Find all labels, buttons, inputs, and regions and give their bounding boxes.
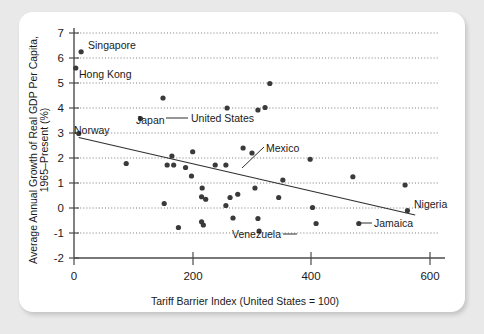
data-point (262, 105, 267, 110)
data-point (223, 203, 228, 208)
y-tick-label-m1: -1 (54, 227, 64, 239)
data-point (224, 105, 229, 110)
data-point-mexico (213, 162, 218, 167)
data-point (255, 107, 260, 112)
data-point (230, 215, 235, 220)
x-tick-label-600: 600 (420, 270, 439, 282)
data-point (203, 197, 208, 202)
data-point (190, 149, 195, 154)
chart-svg: Average Annual Growth of Real GDP Per Ca… (0, 0, 484, 334)
y-tick-label-7: 7 (58, 27, 64, 39)
data-point-hong-kong (73, 65, 78, 70)
y-tick-label-5: 5 (58, 77, 64, 89)
data-point (223, 162, 228, 167)
data-point (183, 165, 188, 170)
data-point (255, 216, 260, 221)
singapore-label: Singapore (88, 39, 136, 51)
united-states-label: United States (191, 112, 254, 124)
data-point (227, 195, 232, 200)
hong-kong-label: Hong Kong (79, 68, 132, 80)
gridlines (74, 33, 438, 233)
data-point (201, 222, 206, 227)
data-point (189, 173, 194, 178)
y-tick-label-6: 6 (58, 52, 64, 64)
y-tick-label-m2: -2 (54, 252, 64, 264)
annotation-leaders (166, 118, 372, 234)
norway-label: Norway (74, 124, 110, 136)
data-point (162, 201, 167, 206)
data-point (200, 185, 205, 190)
nigeria-label: Nigeria (414, 198, 447, 210)
y-tick-label-1: 1 (58, 177, 64, 189)
mexico-leader-line (242, 147, 264, 168)
data-point (308, 157, 313, 162)
x-tick-label-0: 0 (71, 270, 77, 282)
trend-line (79, 138, 415, 216)
data-point (241, 145, 246, 150)
data-point (267, 81, 272, 86)
data-point (171, 162, 176, 167)
y-tick-label-3: 3 (58, 127, 64, 139)
data-point-singapore (79, 49, 84, 54)
scatter-plot-figure: Average Annual Growth of Real GDP Per Ca… (0, 0, 484, 334)
venezuela-label: Venezuela (232, 228, 281, 240)
x-tick-label-400: 400 (301, 270, 320, 282)
y-tick-label-4: 4 (58, 102, 65, 114)
y-tick-label-2: 2 (58, 152, 64, 164)
data-point (310, 205, 315, 210)
data-point (165, 162, 170, 167)
data-point (124, 161, 129, 166)
y-axis-title-line2: 1965–Present (%) (38, 108, 50, 193)
y-axis-title: Average Annual Growth of Real GDP Per Ca… (27, 36, 50, 264)
data-point (176, 225, 181, 230)
x-tick-label-200: 200 (183, 270, 202, 282)
data-point (280, 177, 285, 182)
japan-label: Japan (136, 114, 165, 126)
x-axis-ticks: 0 200 400 600 (71, 252, 440, 282)
data-point (276, 195, 281, 200)
data-point (252, 185, 257, 190)
x-axis-title: Tariff Barrier Index (United States = 10… (151, 295, 339, 307)
data-point-jamaica (313, 221, 318, 226)
data-point (249, 150, 254, 155)
data-point-nigeria (402, 182, 407, 187)
data-point (235, 192, 240, 197)
y-tick-label-0: 0 (58, 202, 64, 214)
data-point-united-states (160, 95, 165, 100)
jamaica-label: Jamaica (374, 217, 413, 229)
data-point (350, 174, 355, 179)
y-axis-ticks: 7 6 5 4 3 2 1 0 -1 -2 (54, 27, 79, 264)
data-point (169, 153, 174, 158)
mexico-label: Mexico (266, 142, 299, 154)
